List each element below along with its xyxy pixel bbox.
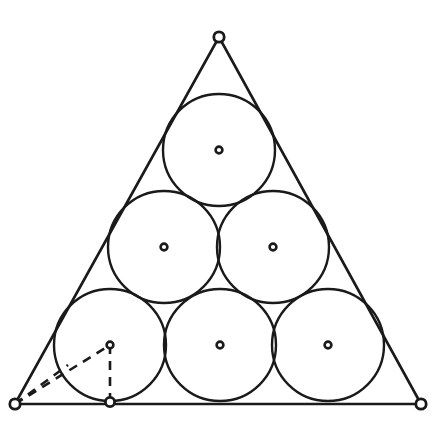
tangency-marker-base: [105, 397, 114, 406]
center-marker-circle-bottom-left: [107, 342, 114, 349]
construction-line-vertex-to-tangency-left-side: [15, 365, 68, 404]
center-marker-circle-bottom-middle: [217, 342, 224, 349]
center-marker-circle-middle-left: [161, 244, 168, 251]
circle-row-middle: [108, 191, 329, 303]
vertex-marker-bottom-right: [416, 399, 426, 409]
geometry-figure: [0, 0, 441, 421]
tangency-markers: [105, 397, 114, 406]
center-marker-circle-bottom-right: [325, 342, 332, 349]
geometry-canvas: [0, 0, 441, 421]
center-marker-circle-middle-right: [270, 244, 277, 251]
center-marker-circle-top: [216, 147, 223, 154]
vertex-marker-apex: [214, 32, 224, 42]
vertex-marker-bottom-left: [10, 399, 20, 409]
